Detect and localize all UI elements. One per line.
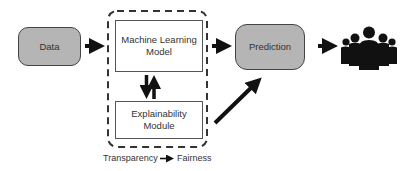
explainability-label-line1: Explainability bbox=[131, 108, 186, 120]
explainability-to-prediction-arrow bbox=[215, 83, 256, 123]
data-node-label: Data bbox=[39, 41, 59, 53]
data-node: Data bbox=[18, 27, 81, 66]
diagram-canvas bbox=[0, 0, 409, 171]
ml-model-label-line2: Model bbox=[146, 46, 172, 58]
prediction-node: Prediction bbox=[235, 24, 305, 70]
ml-model-node: Machine Learning Model bbox=[115, 20, 203, 72]
ml-model-label-line1: Machine Learning bbox=[121, 34, 197, 46]
explainability-label-line2: Module bbox=[143, 120, 174, 132]
prediction-node-label: Prediction bbox=[249, 41, 291, 53]
explainability-node: Explainability Module bbox=[115, 101, 203, 139]
caption-fairness: Fairness bbox=[177, 153, 212, 163]
people-group-icon bbox=[341, 27, 397, 71]
caption-transparency: Transparency bbox=[103, 153, 158, 163]
